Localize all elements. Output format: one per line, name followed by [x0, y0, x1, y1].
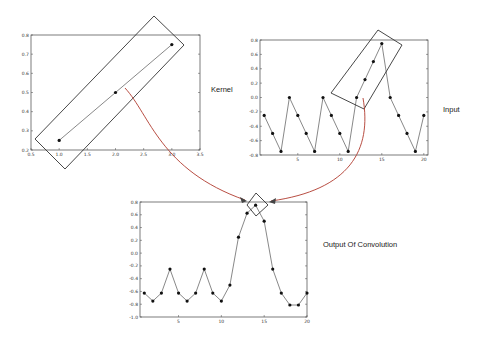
data-point [203, 267, 206, 270]
data-point [143, 291, 146, 294]
data-point [380, 42, 383, 45]
input-to-output-arrow [271, 98, 365, 201]
x-tick-label: 20 [304, 319, 310, 324]
x-tick-label: 0.5 [27, 152, 34, 157]
data-point [186, 299, 189, 302]
kernel-chart: 0.20.30.40.50.60.70.80.51.01.52.02.53.03… [22, 33, 204, 158]
data-point [220, 299, 223, 302]
kernel-label: Kernel [211, 85, 233, 94]
y-tick-label: 0.5 [22, 90, 29, 95]
data-point [168, 267, 171, 270]
x-tick-label: 5 [177, 319, 180, 324]
data-point [297, 303, 300, 306]
data-point [321, 96, 324, 99]
y-tick-label: 0.6 [22, 71, 29, 76]
y-tick-label: 0.4 [251, 66, 258, 71]
y-tick-label: -0.2 [249, 109, 258, 114]
kernel-to-output-arrow [125, 88, 245, 200]
input-label: Input [443, 105, 460, 114]
y-tick-label: 0.7 [22, 52, 29, 57]
x-tick-label: 2.0 [112, 152, 119, 157]
x-tick-label: 1.5 [84, 152, 91, 157]
output-label: Output Of Convolution [323, 240, 397, 249]
data-point [330, 114, 333, 117]
y-tick-label: 0.6 [131, 212, 138, 217]
data-point [271, 132, 274, 135]
data-point [397, 114, 400, 117]
y-tick-label: -0.4 [129, 276, 138, 281]
y-tick-label: 0.0 [131, 251, 138, 256]
data-point [160, 291, 163, 294]
y-tick-label: 0.8 [131, 200, 138, 205]
y-tick-label: -0.6 [249, 138, 258, 143]
x-tick-label: 2.5 [140, 152, 147, 157]
data-point [263, 220, 266, 223]
x-tick-label: 10 [337, 157, 343, 162]
data-point [288, 303, 291, 306]
data-point [355, 96, 358, 99]
y-tick-label: -0.4 [249, 124, 258, 129]
data-point [151, 299, 154, 302]
data-point [347, 150, 350, 153]
y-tick-label: -1.0 [129, 315, 138, 320]
data-point [296, 114, 299, 117]
data-point [422, 114, 425, 117]
data-point [405, 132, 408, 135]
y-tick-label: 0.8 [22, 33, 29, 38]
data-point [414, 150, 417, 153]
data-line [144, 205, 307, 305]
data-point [58, 139, 61, 142]
data-point [170, 43, 173, 46]
convolution-diagram: 0.20.30.40.50.60.70.80.51.01.52.02.53.03… [0, 0, 478, 343]
y-tick-label: 0.4 [22, 109, 29, 114]
data-point [228, 283, 231, 286]
y-tick-label: -0.8 [249, 153, 258, 158]
kernel-highlight-box [35, 16, 184, 169]
data-point [237, 236, 240, 239]
x-tick-label: 20 [421, 157, 427, 162]
x-tick-label: 10 [218, 319, 224, 324]
y-tick-label: 0.0 [251, 95, 258, 100]
input-chart: -0.8-0.6-0.4-0.20.00.20.40.60.85101520 [249, 38, 428, 163]
data-point [288, 96, 291, 99]
y-tick-label: 0.8 [251, 38, 258, 43]
data-point [114, 91, 117, 94]
y-tick-label: -0.8 [129, 302, 138, 307]
output-chart: -1.0-0.8-0.6-0.4-0.20.00.20.40.60.851015… [129, 200, 310, 325]
x-tick-label: 15 [379, 157, 385, 162]
y-tick-label: -0.2 [129, 263, 138, 268]
y-tick-label: -0.6 [129, 289, 138, 294]
x-tick-label: 15 [261, 319, 267, 324]
y-tick-label: 0.6 [251, 52, 258, 57]
data-point [211, 291, 214, 294]
output-point-highlight-box [247, 193, 268, 216]
data-point [372, 60, 375, 63]
data-point [177, 291, 180, 294]
data-point [271, 267, 274, 270]
plot-frame [140, 202, 307, 317]
data-point [245, 212, 248, 215]
y-tick-label: 0.2 [131, 238, 138, 243]
data-point [305, 291, 308, 294]
x-tick-label: 3.5 [196, 152, 203, 157]
data-point [389, 96, 392, 99]
plot-frame [260, 40, 428, 155]
data-point [254, 204, 257, 207]
y-tick-label: 0.3 [22, 128, 29, 133]
data-point [263, 114, 266, 117]
x-tick-label: 1.0 [56, 152, 63, 157]
data-point [363, 78, 366, 81]
y-tick-label: 0.4 [131, 225, 138, 230]
data-point [194, 291, 197, 294]
data-point [279, 150, 282, 153]
arrowhead-icon [269, 198, 276, 204]
x-tick-label: 5 [296, 157, 299, 162]
data-point [305, 132, 308, 135]
data-point [280, 291, 283, 294]
data-point [313, 150, 316, 153]
y-tick-label: 0.2 [251, 81, 258, 86]
data-point [338, 132, 341, 135]
